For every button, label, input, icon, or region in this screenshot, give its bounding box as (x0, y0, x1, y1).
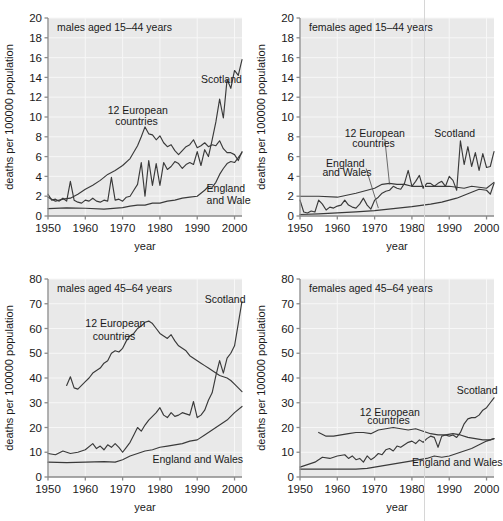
y-tick-label: 10 (281, 446, 294, 458)
series-annotation: and Wales (322, 166, 371, 178)
y-tick-label: 18 (281, 32, 294, 44)
y-tick-label: 0 (288, 471, 294, 483)
chart-females-45-64: 0102030405060708019501960197019801990200… (252, 261, 503, 521)
panel-males-15-44: 0246810121416182019501960197019801990200… (0, 0, 251, 260)
y-tick-label: 70 (281, 298, 294, 310)
y-tick-label: 2 (36, 190, 42, 202)
x-tick-label: 2000 (222, 222, 248, 234)
series-annotation: countries (352, 137, 395, 149)
series-annotation: countries (93, 330, 136, 342)
x-tick-label: 2000 (474, 483, 500, 495)
x-tick-label: 1980 (147, 222, 173, 234)
y-tick-label: 14 (281, 72, 294, 84)
y-tick-label: 70 (29, 298, 42, 310)
y-tick-label: 4 (288, 171, 295, 183)
y-tick-label: 40 (281, 372, 294, 384)
y-tick-label: 30 (281, 397, 294, 409)
y-tick-label: 60 (281, 323, 294, 335)
y-axis-label: deaths per 100000 population (3, 305, 15, 451)
y-tick-label: 80 (29, 273, 42, 285)
y-tick-label: 50 (29, 347, 42, 359)
y-tick-label: 0 (288, 210, 294, 222)
x-axis-label: year (134, 501, 156, 513)
series-annotation: England (207, 182, 246, 194)
panel-title: males aged 45–64 years (57, 282, 172, 294)
y-tick-label: 60 (29, 323, 42, 335)
y-tick-label: 80 (281, 273, 294, 285)
series-annotation: countries (367, 414, 410, 426)
y-tick-label: 4 (36, 171, 43, 183)
y-tick-label: 20 (281, 12, 294, 24)
x-tick-label: 1960 (73, 483, 99, 495)
series-annotation: countries (115, 115, 158, 127)
x-tick-label: 2000 (222, 483, 248, 495)
y-tick-label: 20 (281, 422, 294, 434)
x-tick-label: 1970 (110, 483, 136, 495)
x-tick-label: 1980 (399, 222, 425, 234)
y-tick-label: 6 (288, 151, 294, 163)
series-annotation: Scotland (201, 73, 242, 85)
y-tick-label: 40 (29, 372, 42, 384)
y-axis-label: deaths per 100000 population (255, 44, 267, 190)
x-axis-label: year (134, 240, 156, 252)
series-annotation: Scotland (205, 293, 246, 305)
series-annotation: Scotland (434, 127, 475, 139)
y-tick-label: 14 (29, 72, 42, 84)
x-tick-label: 1950 (287, 222, 313, 234)
panel-females-15-44: 0246810121416182019501960197019801990200… (252, 0, 503, 260)
x-tick-label: 1960 (325, 222, 351, 234)
series-annotation: Scotland (457, 384, 498, 396)
y-tick-label: 12 (29, 91, 42, 103)
chart-females-15-44: 0246810121416182019501960197019801990200… (252, 0, 503, 260)
y-tick-label: 10 (29, 446, 42, 458)
panel-title: females aged 15–44 years (309, 21, 433, 33)
x-tick-label: 1990 (436, 222, 462, 234)
x-tick-label: 1950 (35, 222, 61, 234)
panel-females-45-64: 0102030405060708019501960197019801990200… (252, 261, 503, 521)
y-axis-label: deaths per 100000 population (3, 44, 15, 190)
y-tick-label: 6 (36, 151, 42, 163)
x-tick-label: 1990 (184, 483, 210, 495)
x-tick-label: 1990 (436, 483, 462, 495)
y-tick-label: 18 (29, 32, 42, 44)
x-tick-label: 1950 (35, 483, 61, 495)
x-tick-label: 1950 (287, 483, 313, 495)
y-axis-label: deaths per 100000 population (255, 305, 267, 451)
y-tick-label: 10 (29, 111, 42, 123)
x-tick-label: 1980 (147, 483, 173, 495)
x-tick-label: 2000 (474, 222, 500, 234)
chart-males-15-44: 0246810121416182019501960197019801990200… (0, 0, 251, 260)
y-tick-label: 16 (29, 52, 42, 64)
y-tick-label: 2 (288, 190, 294, 202)
y-tick-label: 0 (36, 471, 42, 483)
x-axis-label: year (386, 240, 408, 252)
y-tick-label: 0 (36, 210, 42, 222)
y-tick-label: 20 (29, 12, 42, 24)
y-tick-label: 8 (36, 131, 42, 143)
y-tick-label: 8 (288, 131, 294, 143)
y-tick-label: 12 (281, 91, 294, 103)
x-tick-label: 1980 (399, 483, 425, 495)
series-annotation: England and Wales (152, 453, 243, 465)
x-tick-label: 1970 (362, 222, 388, 234)
figure-root: 0246810121416182019501960197019801990200… (0, 0, 503, 521)
series-annotation: England and Wales (412, 456, 503, 468)
y-tick-label: 30 (29, 397, 42, 409)
x-tick-label: 1960 (325, 483, 351, 495)
y-tick-label: 16 (281, 52, 294, 64)
chart-males-45-64: 0102030405060708019501960197019801990200… (0, 261, 251, 521)
panel-males-45-64: 0102030405060708019501960197019801990200… (0, 261, 251, 521)
y-tick-label: 20 (29, 422, 42, 434)
series-annotation: and Wales (207, 194, 251, 206)
panel-title: females aged 45–64 years (309, 282, 433, 294)
x-tick-label: 1970 (362, 483, 388, 495)
panel-title: males aged 15–44 years (57, 21, 172, 33)
y-tick-label: 50 (281, 347, 294, 359)
series-annotation: 12 European (85, 317, 145, 329)
x-tick-label: 1990 (184, 222, 210, 234)
x-tick-label: 1970 (110, 222, 136, 234)
x-axis-label: year (386, 501, 408, 513)
x-tick-label: 1960 (73, 222, 99, 234)
y-tick-label: 10 (281, 111, 294, 123)
